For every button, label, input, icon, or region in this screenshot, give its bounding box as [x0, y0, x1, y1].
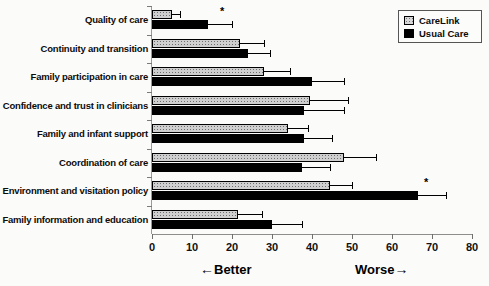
error-bar-cap	[376, 154, 377, 161]
annotation-better-label: Better	[214, 262, 252, 277]
error-bar-line	[310, 100, 348, 101]
x-tick-label: 80	[466, 241, 478, 253]
bar-chart: 01020304050607080 Quality of careContinu…	[0, 0, 489, 286]
error-bar-line	[288, 128, 308, 129]
error-bar-line	[330, 185, 352, 186]
category-label: Continuity and transition	[41, 43, 148, 54]
legend-item-usual-care: Usual Care	[404, 27, 481, 40]
x-tick	[472, 234, 473, 239]
error-bar-line	[264, 71, 290, 72]
x-tick	[312, 234, 313, 239]
error-bar-line	[172, 14, 180, 15]
error-bar-line	[304, 138, 332, 139]
error-bar-cap	[180, 11, 181, 18]
category-label: Family and infant support	[37, 128, 148, 139]
left-arrow-icon: ←	[200, 261, 214, 277]
x-tick	[232, 234, 233, 239]
x-tick-label: 30	[266, 241, 278, 253]
error-bar-line	[302, 167, 330, 168]
error-bar-line	[304, 110, 344, 111]
bar-carelink	[152, 181, 330, 190]
category-label: Quality of care	[85, 14, 148, 25]
error-bar-cap	[330, 164, 331, 171]
x-tick	[352, 234, 353, 239]
error-bar-line	[344, 157, 376, 158]
bar-carelink	[152, 39, 240, 48]
x-tick-label: 60	[386, 241, 398, 253]
bar-usual-care	[152, 20, 208, 29]
bar-usual-care	[152, 77, 312, 86]
x-tick-label: 10	[186, 241, 198, 253]
error-bar-line	[418, 195, 446, 196]
x-tick-label: 0	[149, 241, 155, 253]
annotation-worse: Worse→	[355, 261, 409, 277]
error-bar-cap	[446, 192, 447, 199]
x-tick-label: 50	[346, 241, 358, 253]
x-tick	[152, 234, 153, 239]
error-bar-line	[272, 224, 302, 225]
right-arrow-icon: →	[395, 261, 409, 277]
error-bar-cap	[344, 78, 345, 85]
legend-item-carelink: CareLink	[404, 14, 481, 27]
bar-usual-care	[152, 134, 304, 143]
category-label: Family information and education	[2, 214, 148, 225]
annotation-better: ←Better	[200, 261, 252, 277]
category-label: Environment and visitation policy	[3, 185, 148, 196]
bar-carelink	[152, 124, 288, 133]
bar-carelink	[152, 210, 238, 219]
error-bar-cap	[352, 182, 353, 189]
annotation-worse-label: Worse	[355, 262, 395, 277]
bar-carelink	[152, 96, 310, 105]
significance-marker: *	[220, 7, 224, 15]
legend: CareLink Usual Care	[398, 10, 482, 43]
error-bar-line	[238, 214, 262, 215]
error-bar-cap	[232, 21, 233, 28]
error-bar-line	[312, 81, 344, 82]
bar-usual-care	[152, 163, 302, 172]
x-tick	[392, 234, 393, 239]
usual-care-swatch-icon	[404, 29, 414, 38]
bar-usual-care	[152, 106, 304, 115]
error-bar-cap	[332, 135, 333, 142]
significance-marker: *	[424, 178, 428, 186]
bar-carelink	[152, 153, 344, 162]
error-bar-cap	[262, 211, 263, 218]
x-tick-label: 70	[426, 241, 438, 253]
bar-carelink	[152, 10, 172, 19]
category-label: Confidence and trust in clinicians	[3, 100, 148, 111]
error-bar-cap	[344, 107, 345, 114]
category-label: Family participation in care	[31, 71, 148, 82]
error-bar-line	[208, 24, 232, 25]
bar-carelink	[152, 67, 264, 76]
legend-label-carelink: CareLink	[419, 15, 460, 26]
error-bar-cap	[290, 68, 291, 75]
error-bar-cap	[348, 97, 349, 104]
bar-usual-care	[152, 220, 272, 229]
x-tick-label: 20	[226, 241, 238, 253]
x-tick	[432, 234, 433, 239]
x-tick	[272, 234, 273, 239]
category-label: Coordination of care	[59, 157, 148, 168]
x-tick-label: 40	[306, 241, 318, 253]
bar-usual-care	[152, 49, 248, 58]
carelink-swatch-icon	[404, 16, 414, 25]
error-bar-line	[248, 53, 270, 54]
error-bar-cap	[264, 40, 265, 47]
error-bar-line	[240, 43, 264, 44]
bar-usual-care	[152, 191, 418, 200]
x-tick	[192, 234, 193, 239]
error-bar-cap	[308, 125, 309, 132]
error-bar-cap	[302, 221, 303, 228]
error-bar-cap	[270, 50, 271, 57]
legend-label-usual-care: Usual Care	[419, 28, 469, 39]
